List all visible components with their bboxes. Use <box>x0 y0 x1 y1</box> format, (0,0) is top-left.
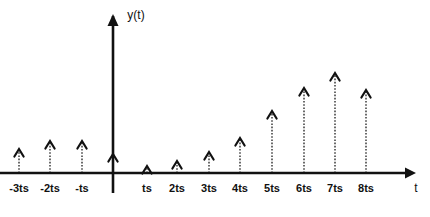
figure-canvas: -3ts-2ts-tsts2ts3ts4ts5ts6ts7ts8ts y(t) … <box>0 0 430 217</box>
x-tick-label: -2ts <box>40 182 60 194</box>
impulse-arrowhead-icon <box>235 138 244 146</box>
y-axis-label: y(t) <box>127 8 144 22</box>
x-axis-label: t <box>414 181 418 195</box>
impulse-plot: -3ts-2ts-tsts2ts3ts4ts5ts6ts7ts8ts y(t) … <box>0 0 430 217</box>
x-tick-label: 3ts <box>201 182 217 194</box>
x-tick-label: -ts <box>75 182 88 194</box>
x-tick-label: -3ts <box>9 182 29 194</box>
x-tick-label: 2ts <box>169 182 185 194</box>
tick-labels-group: -3ts-2ts-tsts2ts3ts4ts5ts6ts7ts8ts <box>9 182 374 194</box>
y-axis-arrowhead-icon <box>108 14 119 26</box>
x-tick-label: 7ts <box>327 182 343 194</box>
impulse-arrowhead-icon <box>361 90 370 98</box>
axes-group <box>0 14 416 193</box>
x-tick-label: 5ts <box>264 182 280 194</box>
x-tick-label: 6ts <box>296 182 312 194</box>
x-tick-label: 8ts <box>358 182 374 194</box>
impulse-stems-group <box>14 73 370 174</box>
impulse-arrowhead-icon <box>172 161 181 169</box>
x-tick-label: ts <box>142 182 152 194</box>
x-axis-arrowhead-icon <box>405 168 416 179</box>
x-tick-label: 4ts <box>232 182 248 194</box>
